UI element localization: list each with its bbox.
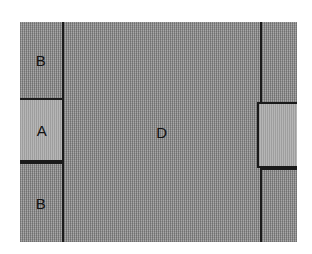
region-right-top[interactable]: [260, 22, 297, 104]
region-left-top[interactable]: B: [20, 22, 64, 100]
region-right-middle[interactable]: [257, 102, 297, 168]
diagram-frame: B A B D: [20, 22, 297, 238]
region-left-top-label: B: [36, 53, 47, 68]
region-right-bottom[interactable]: [260, 168, 297, 242]
region-left-middle-label: A: [37, 123, 48, 138]
region-left-bottom[interactable]: B: [20, 162, 64, 242]
region-left-bottom-label: B: [36, 196, 47, 211]
region-left-middle[interactable]: A: [20, 98, 66, 162]
region-center[interactable]: D: [62, 22, 262, 242]
block-diagram-figure: B A B D: [0, 0, 312, 254]
region-center-label: D: [156, 125, 167, 140]
